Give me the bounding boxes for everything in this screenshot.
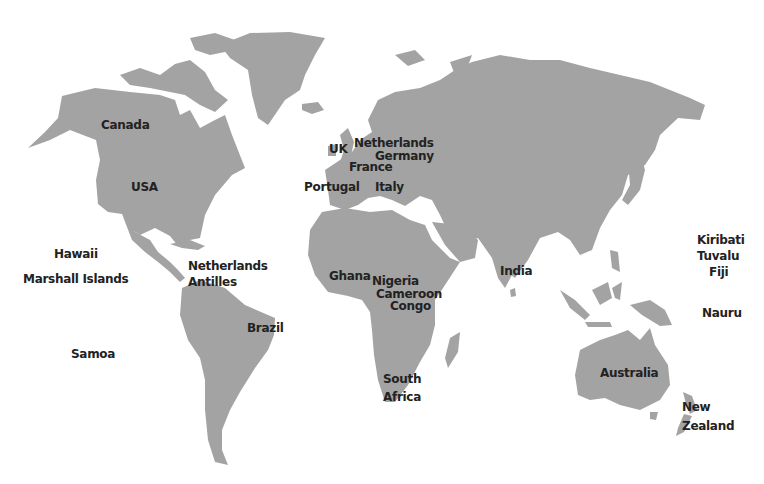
label-india: India [500,265,532,278]
label-usa: USA [131,181,158,194]
label-italy: Italy [375,181,404,194]
svalbard [395,50,425,66]
label-samoa: Samoa [71,348,115,361]
label-nauru: Nauru [702,307,742,320]
label-hawaii: Hawaii [54,248,98,261]
java [585,322,612,327]
sulawesi [612,282,622,300]
label-ghana: Ghana [329,270,371,283]
label-kiribati: Kiribati [697,234,745,247]
label-netherlands-antilles-line2: Antilles [188,276,237,289]
new-guinea [630,300,672,326]
sri-lanka [510,288,516,297]
borneo [592,282,612,305]
label-south-africa-line1: South [383,373,421,386]
label-portugal: Portugal [304,181,360,194]
label-canada: Canada [101,119,149,132]
label-tuvalu: Tuvalu [697,250,739,263]
madagascar [445,332,460,368]
world-map [0,0,764,484]
label-new-zealand-line2: Zealand [682,420,734,433]
label-brazil: Brazil [247,322,284,335]
label-australia: Australia [600,367,658,380]
iceland [302,102,324,114]
north-america-landmass [28,88,245,246]
label-new-zealand-line1: New [682,401,710,414]
label-uk: UK [329,143,347,156]
label-netherlands-antilles-line1: Netherlands [188,260,268,273]
india-landmass [478,238,528,288]
south-america-landmass [180,280,275,465]
label-south-africa-line2: Africa [383,391,421,404]
sumatra [560,290,590,320]
label-france: France [349,161,392,174]
label-congo: Congo [390,300,431,313]
tasmania [650,412,658,420]
philippines [610,250,620,272]
label-marshall-islands: Marshall Islands [23,273,128,286]
label-fiji: Fiji [709,266,728,279]
